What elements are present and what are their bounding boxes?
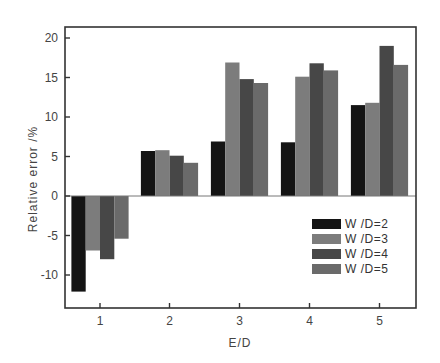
y-axis-title: Relative error /% (26, 126, 40, 232)
y-tick-label: -10 (41, 268, 59, 282)
bar (141, 151, 155, 196)
y-tick-label: 10 (45, 110, 59, 124)
bar (295, 77, 309, 196)
bar (86, 196, 100, 251)
legend-swatch (312, 249, 341, 259)
bar (281, 142, 295, 196)
bar (100, 196, 114, 259)
y-tick-label: 0 (51, 189, 58, 203)
bar-chart: -10-505101520 12345 E/D Relative error /… (0, 0, 440, 363)
y-tick-label: 15 (45, 71, 59, 85)
legend-label: W /D=4 (345, 247, 388, 261)
legend-label: W /D=3 (345, 232, 388, 246)
x-tick-label: 2 (166, 314, 173, 328)
x-tick-label: 4 (306, 314, 313, 328)
legend: W /D=2W /D=3W /D=4W /D=5 (312, 217, 388, 276)
bar (170, 156, 184, 196)
bar (211, 142, 225, 197)
bar (71, 196, 85, 292)
bar (184, 163, 198, 196)
bar (394, 65, 408, 196)
x-tick-label: 5 (376, 314, 383, 328)
bar (324, 70, 338, 196)
bar (240, 79, 254, 196)
bar (114, 196, 128, 239)
x-axis-title: E/D (228, 336, 251, 350)
y-tick-label: 20 (45, 31, 59, 45)
bar (351, 105, 365, 196)
legend-label: W /D=2 (345, 217, 388, 231)
bar (365, 103, 379, 196)
x-tick-label: 3 (236, 314, 243, 328)
y-tick-label: 5 (51, 150, 58, 164)
bar (254, 83, 268, 196)
bar (380, 46, 394, 196)
legend-swatch (312, 234, 341, 244)
legend-swatch (312, 219, 341, 229)
y-tick-label: -5 (47, 229, 58, 243)
x-axis-ticks: 12345 (97, 303, 384, 328)
x-tick-label: 1 (97, 314, 104, 328)
bar (225, 63, 239, 197)
legend-swatch (312, 264, 341, 274)
bar (310, 63, 324, 196)
bar (155, 150, 169, 196)
legend-label: W /D=5 (345, 262, 388, 276)
